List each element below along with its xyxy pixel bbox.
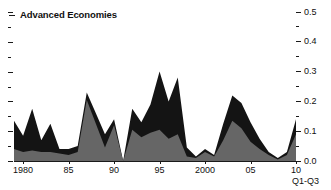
- plot-area: [14, 12, 296, 161]
- y-axis-tick-minor: [296, 82, 299, 92]
- y-axis-tick-minor: [296, 22, 299, 32]
- tick-mark-icon: [296, 131, 301, 132]
- y-axis-left-tick-minor: [8, 57, 11, 58]
- y-axis-left-tick-major: [8, 42, 13, 43]
- x-axis-tick-label: 1980: [13, 165, 33, 175]
- dash-marker-icon: [9, 15, 15, 16]
- x-axis: Q1-Q3 198085909520000510: [0, 161, 331, 190]
- tick-mark-icon: [296, 12, 301, 13]
- y-axis-tick-minor: [296, 141, 299, 151]
- chart-title-row: Advanced Economies: [9, 10, 117, 20]
- y-axis-left-tick-minor: [8, 87, 11, 88]
- tick-mark-icon: [296, 56, 299, 57]
- y-axis-left-tick-minor: [8, 116, 11, 117]
- y-axis-left-tick-minor: [8, 27, 11, 28]
- x-axis-tick-label: 10: [291, 165, 301, 175]
- tick-mark-icon: [296, 116, 299, 117]
- y-axis-tick-label: 0.3: [304, 67, 317, 76]
- y-axis-tick-minor: [296, 111, 299, 121]
- x-axis-tick-mark: [23, 161, 24, 164]
- y-axis-tick-label: 0.4: [304, 37, 317, 46]
- x-axis-tick-mark: [114, 161, 115, 164]
- tick-mark-icon: [296, 86, 299, 87]
- chart-container: Advanced Economies 0.00.10.20.30.40.5 Q1…: [0, 0, 331, 190]
- x-axis-tick-label: 95: [155, 165, 165, 175]
- tick-mark-icon: [296, 71, 301, 72]
- page-title: Advanced Economies: [20, 10, 117, 20]
- y-axis-tick-major: 0.2: [296, 96, 317, 106]
- y-axis-left-tick-minor: [8, 146, 11, 147]
- y-axis-tick-major: 0.3: [296, 67, 317, 77]
- y-axis-tick-label: 0.1: [304, 127, 317, 136]
- x-axis-tick-mark: [296, 161, 297, 164]
- y-axis-left-tick-major: [8, 101, 13, 102]
- tick-mark-icon: [296, 101, 301, 102]
- y-axis-left-tick-major: [8, 131, 13, 132]
- x-axis-tick-mark: [205, 161, 206, 164]
- area-series-group: [14, 12, 296, 161]
- y-axis-tick-minor: [296, 52, 299, 62]
- y-axis-left-tick-major: [8, 72, 13, 73]
- y-axis-tick-major: 0.4: [296, 37, 317, 47]
- x-axis-note: Q1-Q3: [292, 176, 319, 186]
- y-axis-tick-major: 0.1: [296, 126, 317, 136]
- tick-mark-icon: [296, 146, 299, 147]
- x-axis-tick-label: 2000: [195, 165, 215, 175]
- x-axis-tick-label: 05: [246, 165, 256, 175]
- x-axis-tick-mark: [69, 161, 70, 164]
- y-axis-tick-major: 0.5: [296, 7, 317, 17]
- x-axis-tick-label: 85: [64, 165, 74, 175]
- x-axis-tick-mark: [251, 161, 252, 164]
- x-axis-tick-mark: [160, 161, 161, 164]
- y-axis-tick-label: 0.5: [304, 8, 317, 17]
- tick-mark-icon: [296, 41, 301, 42]
- x-axis-tick-label: 90: [109, 165, 119, 175]
- tick-mark-icon: [296, 26, 299, 27]
- y-axis-tick-label: 0.2: [304, 97, 317, 106]
